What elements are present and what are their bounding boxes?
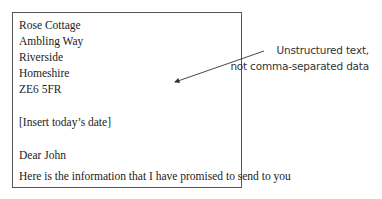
annotation-line-2: not comma-separated data [230,58,369,74]
annotation-line-1: Unstructured text, [230,42,369,58]
annotation-callout: Unstructured text, not comma-separated d… [230,42,369,74]
arrow-icon [0,0,382,199]
